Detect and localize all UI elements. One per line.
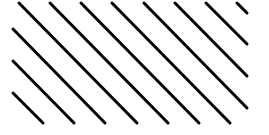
hatch-pattern	[0, 0, 269, 135]
background	[0, 0, 269, 135]
